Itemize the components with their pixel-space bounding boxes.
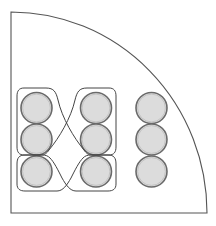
circle-left-1 [21,93,52,124]
circle-right-2 [136,124,167,155]
diagram-svg [0,0,216,226]
circle-middle-3 [81,156,112,187]
circle-middle-2 [81,124,112,155]
circle-right-1 [136,93,167,124]
circle-right-3 [136,156,167,187]
diagram-canvas [0,0,216,226]
circle-left-3 [21,156,52,187]
circle-left-2 [21,124,52,155]
circle-grid [21,93,167,188]
circle-middle-1 [81,93,112,124]
